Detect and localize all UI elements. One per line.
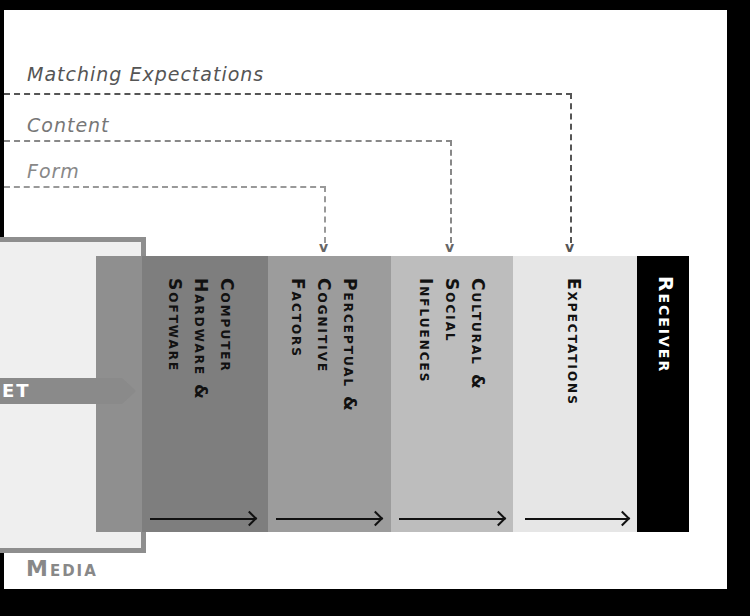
arrow-down-icon: v	[565, 240, 574, 254]
arrow-down-icon: v	[445, 240, 454, 254]
flow-label-matching-expectations: Matching Expectations	[27, 63, 264, 85]
pointer-arrow: ET	[0, 378, 122, 404]
column-perceptual-cognitive-factors: Perceptual & Cognitive Factors	[268, 256, 391, 532]
flow-label-form: Form	[27, 160, 80, 182]
arrow-right-icon	[399, 518, 505, 520]
flow-drop-matching-expectations	[570, 93, 572, 243]
column-label: Expectations	[561, 278, 587, 406]
flow-label-content: Content	[27, 114, 110, 136]
flow-drop-form	[324, 186, 326, 243]
flow-line-form	[4, 186, 326, 188]
flow-line-content	[4, 140, 452, 142]
arrow-right-icon	[525, 518, 629, 520]
arrow-right-icon	[276, 518, 382, 520]
flow-line-matching-expectations	[4, 93, 572, 95]
arrow-down-icon: v	[319, 240, 328, 254]
media-title: Media	[26, 556, 98, 581]
receiver-label: Receiver	[653, 276, 679, 373]
column-computer-hardware-software: Computer Hardware & Software	[142, 256, 268, 532]
receiver-block: Receiver	[637, 256, 689, 532]
flow-drop-content	[450, 140, 452, 243]
pointer-label: ET	[2, 380, 31, 401]
arrow-right-icon	[150, 518, 256, 520]
column-label: Cultural & Social Influences	[413, 278, 491, 391]
column-cultural-social-influences: Cultural & Social Influences	[391, 256, 513, 532]
column-expectations: Expectations	[513, 256, 637, 532]
column-label: Computer Hardware & Software	[162, 278, 240, 401]
column-label: Perceptual & Cognitive Factors	[285, 278, 363, 413]
